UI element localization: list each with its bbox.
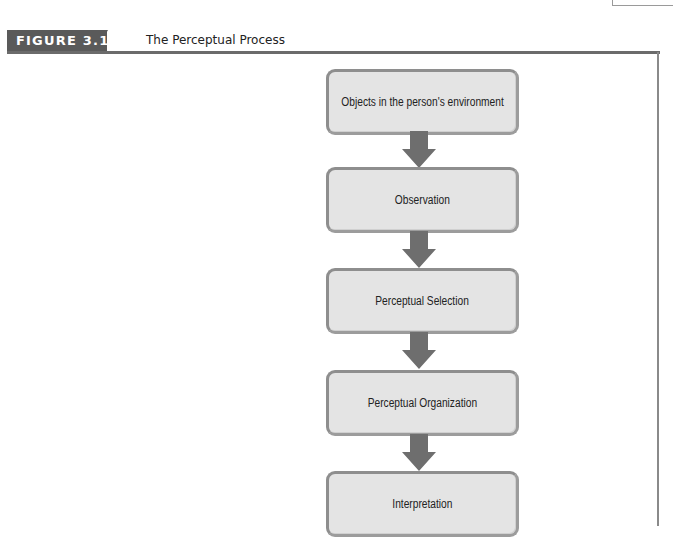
down-arrow-icon: [402, 231, 436, 268]
flow-step-observation: Observation: [326, 167, 519, 233]
flow-step-label: Interpretation: [392, 497, 452, 511]
down-arrow-icon: [402, 131, 436, 168]
right-frame-rule: [657, 52, 659, 526]
flow-step-interpretation: Interpretation: [326, 471, 519, 537]
figure-title: The Perceptual Process: [146, 33, 285, 47]
flow-step-label: Observation: [395, 193, 450, 207]
header-rule: [7, 51, 660, 54]
corner-frame: [612, 0, 673, 6]
flow-step-objects: Objects in the person's environment: [326, 69, 519, 135]
figure-label: FIGURE 3.1: [16, 33, 109, 48]
flow-step-label: Objects in the person's environment: [341, 95, 503, 109]
flow-step-perceptual-organization: Perceptual Organization: [326, 370, 519, 436]
flow-step-label: Perceptual Organization: [368, 396, 477, 410]
down-arrow-icon: [402, 434, 436, 471]
flow-step-perceptual-selection: Perceptual Selection: [326, 268, 519, 334]
flow-step-label: Perceptual Selection: [376, 294, 470, 308]
down-arrow-icon: [402, 332, 436, 369]
